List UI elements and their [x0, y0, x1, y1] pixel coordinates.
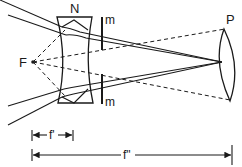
- diverging-lens-label: N: [70, 1, 79, 16]
- ray-upper-1-refracted: [62, 27, 222, 62]
- f-double-prime-label: f": [123, 148, 131, 162]
- f-prime-label: f': [49, 128, 55, 142]
- ray-lower-1: [8, 89, 64, 106]
- optics-diagram: F N m m P f' f": [0, 0, 242, 167]
- dimension-f-double-prime: f": [32, 145, 232, 165]
- stop-bottom-label: m: [105, 95, 115, 109]
- converging-lens-P: [219, 29, 235, 101]
- diagram-canvas: F N m m P f' f": [0, 0, 242, 167]
- ray-lower-2: [8, 97, 62, 125]
- dimension-f-prime: f': [32, 128, 73, 142]
- stop-top-label: m: [105, 13, 115, 27]
- focal-point-label: F: [19, 55, 27, 70]
- converging-lens-label: P: [226, 12, 235, 27]
- incident-rays-upper: [0, 0, 222, 62]
- ray-upper-inner: [62, 20, 88, 30]
- focal-point-marker: [31, 60, 35, 64]
- incident-rays-lower: [8, 62, 222, 125]
- ray-lower-1-refracted: [64, 62, 222, 89]
